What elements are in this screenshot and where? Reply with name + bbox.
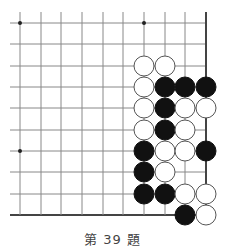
black-stone	[134, 141, 154, 161]
white-stone	[175, 184, 195, 204]
star-point	[142, 21, 146, 25]
white-stone	[175, 120, 195, 140]
black-stone	[196, 141, 216, 161]
white-stone	[196, 205, 216, 225]
black-stone	[175, 77, 195, 97]
black-stone	[196, 77, 216, 97]
white-stone	[196, 184, 216, 204]
star-point	[18, 21, 22, 25]
white-stone	[134, 98, 154, 118]
problem-caption: 第 39 題	[0, 229, 225, 248]
black-stone	[155, 77, 175, 97]
black-stone	[175, 205, 195, 225]
black-stone	[155, 120, 175, 140]
go-board	[0, 0, 225, 228]
black-stone	[155, 184, 175, 204]
white-stone	[155, 141, 175, 161]
white-stone	[134, 77, 154, 97]
white-stone	[196, 98, 216, 118]
black-stone	[134, 184, 154, 204]
white-stone	[175, 98, 195, 118]
black-stone	[155, 98, 175, 118]
star-point	[18, 149, 22, 153]
white-stone	[175, 141, 195, 161]
white-stone	[134, 56, 154, 76]
white-stone	[155, 162, 175, 182]
black-stone	[134, 162, 154, 182]
white-stone	[155, 56, 175, 76]
stones-layer	[134, 56, 216, 225]
white-stone	[134, 120, 154, 140]
